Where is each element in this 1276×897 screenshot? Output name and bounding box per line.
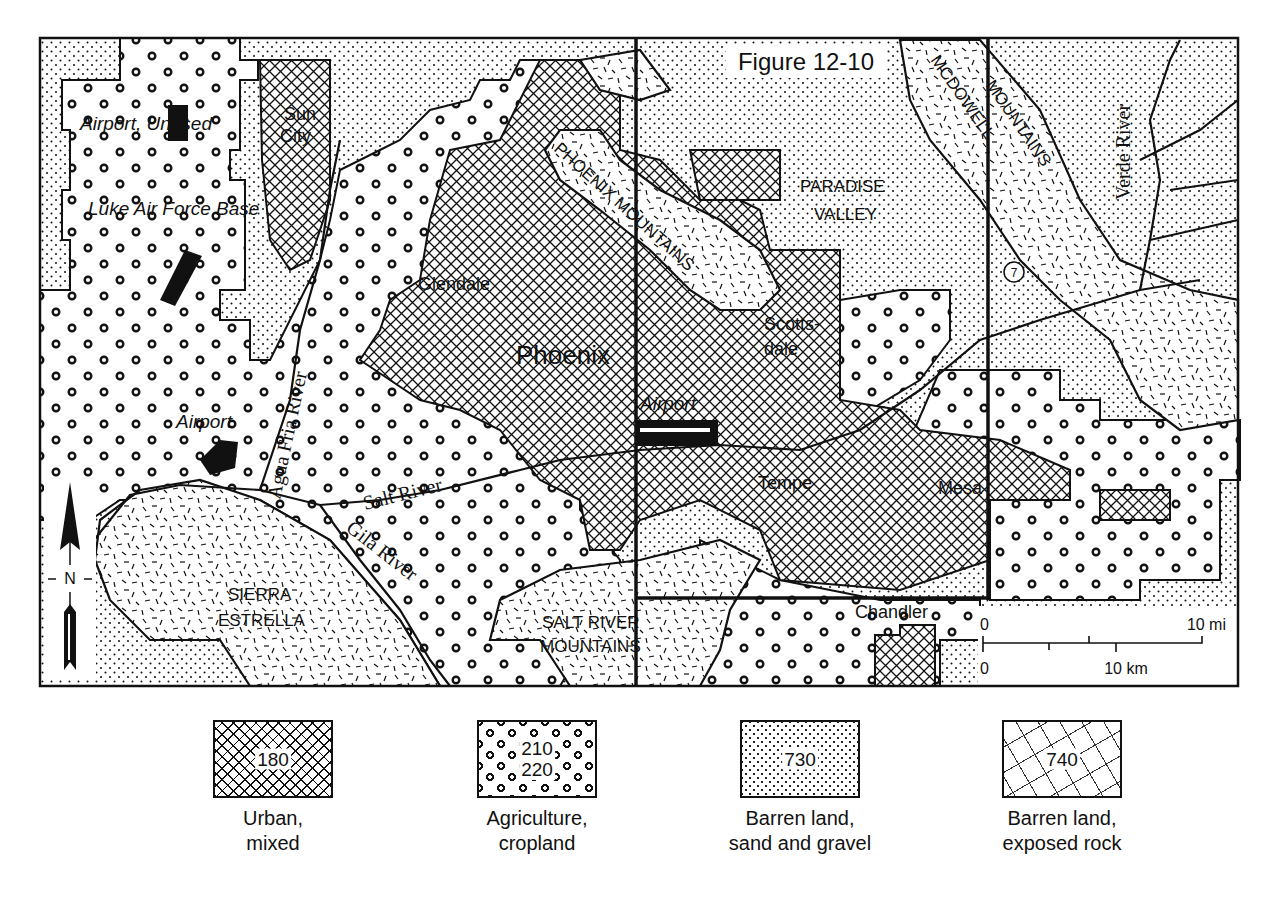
legend-label: Barren land, sand and gravel: [700, 806, 900, 856]
urban-east-patch: [1100, 490, 1170, 520]
label-sierra-estrella-2: ESTRELLA: [218, 611, 306, 630]
legend-code: 740: [1044, 749, 1080, 770]
legend-item-urban: 180 Urban, mixed: [173, 720, 373, 856]
label-paradise-valley-2: VALLEY: [814, 205, 877, 224]
scale-bar: 0 10 mi 0 10 km: [978, 606, 1236, 684]
legend-code: 730: [782, 749, 818, 770]
legend-code: 210 220: [519, 738, 555, 780]
legend-code: 180: [255, 749, 291, 770]
label-sierra-estrella-1: SIERRA: [228, 585, 292, 604]
label-mesa: Mesa: [938, 478, 983, 498]
land-use-map: Figure 12-10 Airport, Unused Luke Air Fo…: [0, 0, 1276, 720]
urban-chandler: [875, 625, 935, 686]
scale-km-zero: 0: [980, 660, 989, 677]
label-salt-river-mtns-2: MOUNTAINS: [540, 637, 641, 656]
label-scottsdale-2: dale: [764, 339, 798, 359]
label-luke-afb: Luke Air Force Base: [88, 198, 259, 219]
north-arrow: N: [44, 478, 96, 678]
label-scottsdale-1: Scotts-: [764, 314, 820, 334]
label-tempe: Tempe: [758, 473, 812, 493]
label-airport-west: Airport: [175, 411, 233, 432]
label-paradise-valley-1: PARADISE: [800, 177, 885, 196]
highway-marker: 7: [1004, 262, 1024, 282]
north-label: N: [64, 570, 76, 587]
legend-swatch-crosshatch: 180: [213, 720, 333, 798]
label-sun-city-2: City: [280, 126, 311, 146]
label-chandler: Chandler: [855, 602, 928, 622]
scale-km-label: 10 km: [1104, 660, 1148, 677]
legend-item-sand-gravel: 730 Barren land, sand and gravel: [700, 720, 900, 856]
label-airport-unused: Airport, Unused: [79, 113, 213, 134]
legend-item-exposed-rock: 740 Barren land, exposed rock: [962, 720, 1162, 856]
sky-harbor-airport-shape: [636, 420, 718, 446]
figure-title: Figure 12-10: [738, 48, 874, 75]
label-airport-sky-harbor: Airport: [639, 393, 697, 414]
scale-mi-label: 10 mi: [1187, 616, 1226, 633]
legend-label: Urban, mixed: [173, 806, 373, 856]
label-phoenix: Phoenix: [516, 340, 610, 370]
label-salt-river-mtns-1: SALT RIVER: [542, 613, 640, 632]
legend-swatch-dashes: 740: [1002, 720, 1122, 798]
urban-paradise-valley: [690, 150, 780, 200]
scale-mi-zero: 0: [980, 616, 989, 633]
legend-item-agriculture: 210 220 Agriculture, cropland: [437, 720, 637, 856]
label-sun-city-1: Sun: [284, 104, 316, 124]
label-glendale: Glendale: [418, 274, 490, 294]
legend-swatch-dotted-rings: 210 220: [477, 720, 597, 798]
legend-label: Barren land, exposed rock: [962, 806, 1162, 856]
legend-swatch-stipple: 730: [740, 720, 860, 798]
label-verde-river: Verde River: [1112, 104, 1134, 200]
svg-text:7: 7: [1011, 266, 1018, 280]
legend: 180 Urban, mixed 210 220 Agriculture, cr…: [0, 720, 1276, 890]
legend-label: Agriculture, cropland: [437, 806, 637, 856]
